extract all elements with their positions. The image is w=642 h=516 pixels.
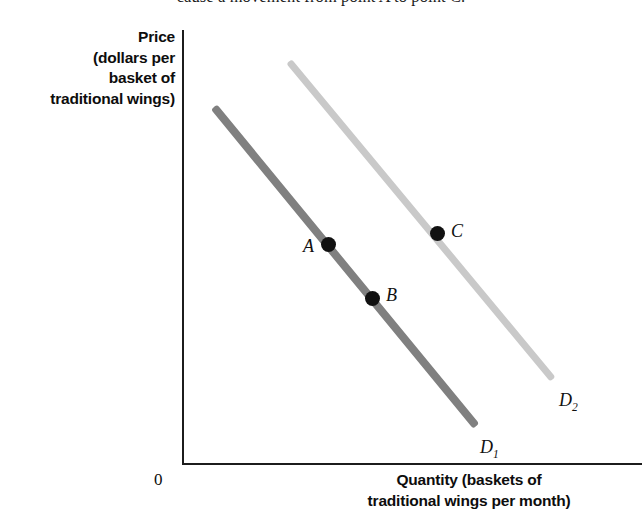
- y-axis-label-line-4: traditional wings): [0, 89, 175, 110]
- demand-curve-figure: cause a movement from point A to point C…: [0, 0, 642, 516]
- demand-curve-d1: [211, 104, 479, 428]
- point-c-marker: [430, 226, 445, 241]
- figure-caption-text: cause a movement from point A to point C…: [177, 0, 466, 6]
- x-axis: [182, 463, 642, 465]
- point-b-marker: [365, 291, 380, 306]
- y-axis-label: Price (dollars per basket of traditional…: [0, 27, 175, 109]
- point-c-label: C: [451, 221, 463, 242]
- demand-curve-d2: [286, 59, 555, 381]
- y-axis-label-line-1: Price: [0, 27, 175, 48]
- curve-d2-letter: D: [559, 390, 572, 410]
- y-axis-label-line-2: (dollars per: [0, 48, 175, 69]
- point-a-letter: A: [303, 236, 314, 256]
- figure-caption: cause a movement from point A to point C…: [0, 0, 642, 7]
- curve-d1-subscript: 1: [493, 448, 499, 460]
- origin-label: 0: [154, 470, 163, 490]
- x-axis-label: Quantity (baskets of traditional wings p…: [296, 470, 642, 511]
- point-a-label: A: [303, 236, 314, 257]
- y-axis: [182, 30, 184, 465]
- point-b-label: B: [386, 285, 397, 306]
- point-b-letter: B: [386, 285, 397, 305]
- x-axis-label-line-2: traditional wings per month): [296, 491, 642, 512]
- point-c-letter: C: [451, 221, 463, 241]
- point-a-marker: [321, 237, 336, 252]
- y-axis-label-line-3: basket of: [0, 68, 175, 89]
- curve-d1-label: D1: [480, 437, 499, 460]
- curve-d2-label: D2: [559, 390, 578, 413]
- x-axis-label-line-1: Quantity (baskets of: [296, 470, 642, 491]
- curve-d1-letter: D: [480, 437, 493, 457]
- curve-d2-subscript: 2: [572, 401, 578, 413]
